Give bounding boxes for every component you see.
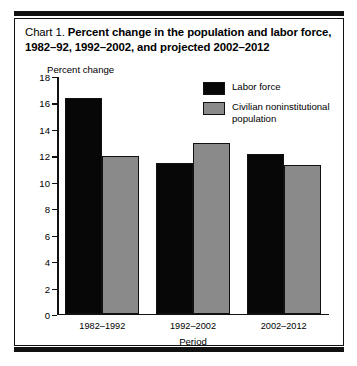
chart-frame: Chart 1. Percent change in the populatio… bbox=[14, 18, 344, 346]
chart-title-number: Chart 1. bbox=[25, 26, 65, 38]
y-tick-label: 10 bbox=[39, 177, 50, 188]
legend-item-labor-force: Labor force bbox=[203, 81, 335, 95]
chart-figure: Chart 1. Percent change in the populatio… bbox=[0, 0, 357, 366]
legend-label-labor-force: Labor force bbox=[232, 81, 281, 93]
top-rule bbox=[14, 11, 344, 16]
y-tick-label: 12 bbox=[39, 151, 50, 162]
legend-swatch-labor-force bbox=[203, 82, 225, 95]
x-axis-line bbox=[57, 314, 329, 316]
bar bbox=[102, 156, 139, 313]
y-tick-label: 14 bbox=[39, 124, 50, 135]
y-tick-label: 6 bbox=[45, 230, 50, 241]
x-category-label: 1992–2002 bbox=[156, 321, 230, 331]
bar bbox=[65, 98, 102, 314]
bottom-rule bbox=[14, 347, 344, 352]
bar bbox=[193, 143, 230, 314]
bar bbox=[156, 163, 193, 314]
x-axis-title: Period bbox=[57, 336, 329, 347]
y-tick-label: 8 bbox=[45, 204, 50, 215]
bar bbox=[247, 154, 284, 314]
x-category-label: 2002–2012 bbox=[247, 321, 321, 331]
y-tick-label: 0 bbox=[45, 310, 50, 321]
bar-group bbox=[65, 76, 139, 314]
y-tick-label: 18 bbox=[39, 72, 50, 83]
legend-label-civilian-population: Civilian noninstitutional population bbox=[232, 101, 335, 124]
y-tick-label: 2 bbox=[45, 283, 50, 294]
y-tick-label: 16 bbox=[39, 98, 50, 109]
chart-legend: Labor force Civilian noninstitutional po… bbox=[203, 81, 335, 130]
y-tick-mark bbox=[52, 315, 57, 316]
legend-item-civilian-population: Civilian noninstitutional population bbox=[203, 101, 335, 124]
legend-swatch-civilian-population bbox=[203, 102, 225, 115]
y-axis-title: Percent change bbox=[47, 64, 114, 75]
chart-title: Chart 1. Percent change in the populatio… bbox=[25, 25, 337, 55]
y-tick-label: 4 bbox=[45, 257, 50, 268]
chart-title-text: Percent change in the population and lab… bbox=[25, 26, 331, 53]
x-category-label: 1982–1992 bbox=[65, 321, 139, 331]
bar bbox=[284, 165, 321, 313]
